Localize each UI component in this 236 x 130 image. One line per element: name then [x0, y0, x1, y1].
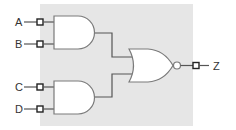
output-label-z: Z — [213, 60, 220, 72]
and-gate-2 — [54, 81, 95, 114]
input-label-d: D — [15, 103, 23, 115]
input-a-pin — [37, 19, 43, 25]
input-b-pin — [37, 41, 43, 47]
and-gate-1 — [54, 16, 95, 49]
input-c-pin — [37, 84, 43, 90]
input-label-c: C — [15, 81, 23, 93]
output-z-pin — [193, 63, 199, 69]
input-label-b: B — [15, 38, 22, 50]
input-label-a: A — [15, 16, 23, 28]
logic-circuit-diagram: A B C D Z — [0, 0, 236, 130]
input-d-pin — [37, 106, 43, 112]
nor-inversion-bubble — [174, 62, 181, 69]
